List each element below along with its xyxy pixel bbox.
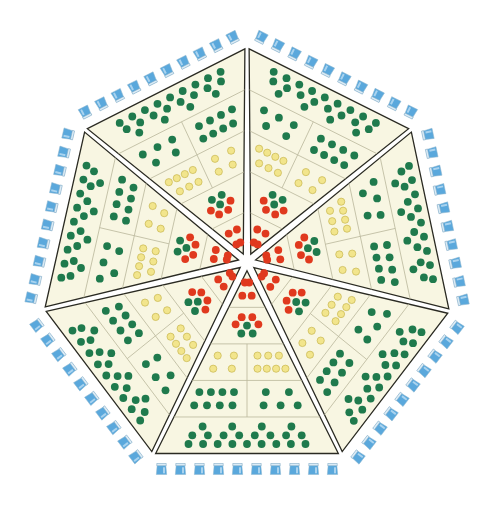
cup-icon[interactable] — [58, 146, 71, 159]
cup-icon[interactable] — [437, 202, 450, 214]
green-dot — [102, 372, 110, 380]
cup-icon[interactable] — [445, 239, 458, 251]
green-dot — [373, 323, 381, 331]
cup-icon[interactable] — [449, 320, 464, 335]
cup-icon[interactable] — [449, 257, 462, 269]
cup-icon[interactable] — [175, 464, 185, 475]
cup-icon[interactable] — [144, 72, 158, 86]
green-dot — [347, 106, 355, 114]
cup-icon[interactable] — [193, 47, 207, 61]
cup-icon[interactable] — [453, 275, 466, 287]
cup-icon[interactable] — [254, 30, 268, 44]
cup-icon[interactable] — [74, 376, 89, 391]
cup-icon[interactable] — [350, 449, 365, 464]
cup-icon[interactable] — [425, 147, 438, 159]
cup-icon[interactable] — [416, 363, 431, 378]
cup-icon[interactable] — [62, 128, 75, 141]
cup-icon[interactable] — [394, 392, 409, 407]
green-dot — [174, 248, 182, 256]
cup-icon[interactable] — [118, 434, 133, 449]
cup-icon[interactable] — [25, 292, 38, 305]
cup-icon[interactable] — [251, 464, 261, 475]
yellow-dot — [157, 225, 164, 232]
cup-icon[interactable] — [49, 183, 62, 196]
board-wedges — [45, 49, 449, 454]
cup-icon[interactable] — [287, 47, 301, 61]
cup-icon[interactable] — [308, 464, 318, 475]
cup-icon[interactable] — [41, 332, 56, 347]
cup-icon[interactable] — [85, 391, 100, 406]
green-dot — [107, 349, 115, 357]
red-dot — [266, 283, 274, 291]
cup-icon[interactable] — [289, 464, 299, 475]
cup-icon[interactable] — [156, 464, 166, 475]
cup-icon[interactable] — [433, 183, 446, 195]
cup-icon[interactable] — [387, 97, 401, 111]
cup-icon[interactable] — [226, 30, 240, 44]
cup-icon[interactable] — [63, 361, 78, 376]
yellow-dot — [254, 365, 261, 372]
green-dot — [166, 94, 174, 102]
green-dot — [313, 248, 321, 256]
cup-icon[interactable] — [33, 255, 46, 268]
cup-shine — [201, 467, 203, 473]
cup-icon[interactable] — [427, 348, 442, 363]
cup-icon[interactable] — [52, 347, 67, 362]
cup-icon[interactable] — [209, 39, 223, 53]
cup-icon[interactable] — [441, 220, 454, 232]
cup-icon[interactable] — [41, 219, 54, 232]
green-dot — [382, 361, 390, 369]
cup-icon[interactable] — [45, 201, 58, 214]
cup-icon[interactable] — [320, 63, 334, 77]
cup-icon[interactable] — [421, 128, 434, 140]
cup-icon[interactable] — [429, 165, 442, 177]
green-dot — [404, 198, 412, 206]
cup-icon[interactable] — [95, 97, 109, 111]
cup-icon[interactable] — [213, 464, 223, 475]
yellow-dot — [338, 198, 345, 205]
cup-icon[interactable] — [354, 80, 368, 94]
yellow-dot — [177, 325, 184, 332]
cup-icon[interactable] — [78, 105, 92, 119]
green-dot — [292, 298, 300, 306]
green-dot — [109, 317, 117, 325]
cup-icon[interactable] — [107, 420, 122, 435]
red-dot — [300, 234, 308, 242]
cup-icon[interactable] — [403, 105, 417, 119]
cup-icon[interactable] — [270, 464, 280, 475]
red-dot — [232, 320, 240, 328]
cup-icon[interactable] — [304, 55, 318, 69]
cup-icon[interactable] — [232, 464, 242, 475]
cup-icon[interactable] — [194, 464, 204, 475]
cup-icon[interactable] — [96, 405, 111, 420]
green-dot — [142, 395, 150, 403]
cup-icon[interactable] — [127, 80, 141, 94]
cup-icon[interactable] — [337, 72, 351, 86]
cup-icon[interactable] — [383, 406, 398, 421]
cup-icon[interactable] — [37, 237, 50, 250]
cup-icon[interactable] — [129, 449, 144, 464]
green-dot — [285, 388, 293, 396]
yellow-dot — [147, 268, 154, 275]
cup-base — [214, 464, 223, 466]
green-dot — [350, 152, 358, 160]
cup-base — [233, 464, 242, 466]
cup-icon[interactable] — [29, 274, 42, 287]
yellow-dot — [326, 207, 333, 214]
cup-icon[interactable] — [30, 318, 45, 333]
cup-icon[interactable] — [370, 88, 384, 102]
cup-icon[interactable] — [405, 377, 420, 392]
cup-icon[interactable] — [372, 420, 387, 435]
cup-base — [328, 464, 337, 466]
cup-icon[interactable] — [361, 435, 376, 450]
cup-icon[interactable] — [327, 464, 337, 475]
cup-icon[interactable] — [456, 294, 469, 306]
green-dot — [161, 116, 169, 124]
cup-icon[interactable] — [160, 64, 174, 78]
cup-icon[interactable] — [54, 164, 67, 177]
cup-icon[interactable] — [271, 39, 285, 53]
cup-icon[interactable] — [438, 334, 453, 349]
cup-icon[interactable] — [111, 88, 125, 102]
cup-icon[interactable] — [177, 55, 191, 69]
green-dot — [362, 373, 370, 381]
